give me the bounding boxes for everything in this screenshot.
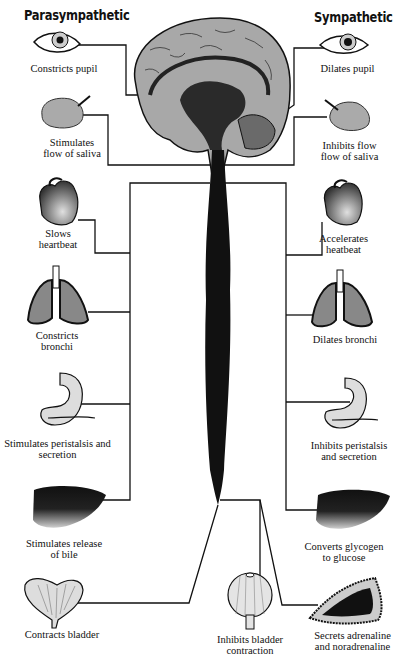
right-lungs-icon	[312, 270, 372, 326]
right-eye-icon	[320, 34, 368, 53]
left-lungs-icon	[28, 266, 88, 324]
left-liver-icon	[33, 486, 106, 528]
label-dilates-pupil: Dilates pupil	[300, 63, 395, 74]
left-bladder-icon	[25, 579, 83, 628]
label-accelerates-heartbeat: Accelerates heatbeat	[296, 233, 391, 255]
label-contracts-bladder: Contracts bladder	[12, 629, 112, 640]
right-liver-icon	[316, 490, 390, 529]
right-salivary-gland-icon	[325, 100, 370, 131]
label-converts-glycogen: Converts glycogen to glucose	[294, 541, 394, 563]
spinal-cord-icon	[205, 150, 230, 505]
label-inhibits-saliva: Inhibits flow flow of saliva	[302, 140, 397, 162]
label-stimulates-saliva: Stimulates flow of saliva	[22, 137, 122, 159]
left-salivary-gland-icon	[42, 96, 90, 128]
center-bladder-icon	[228, 573, 272, 629]
label-stimulates-peristalsis: Stimulates peristalsis and secretion	[0, 438, 115, 460]
label-constricts-pupil: Constricts pupil	[14, 63, 114, 74]
autonomic-nervous-system-diagram: Parasympathetic Sympathetic Constricts p…	[0, 0, 399, 659]
right-heart-icon	[324, 180, 362, 224]
label-inhibits-bladder: Inhibits bladder contraction	[200, 634, 300, 656]
right-stomach-icon	[325, 378, 378, 428]
sympathetic-heading: Sympathetic	[314, 9, 393, 25]
parasympathetic-heading: Parasympathetic	[24, 7, 129, 23]
label-dilates-bronchi: Dilates bronchi	[295, 334, 395, 345]
left-eye-icon	[34, 32, 80, 52]
left-heart-icon	[40, 178, 78, 224]
left-stomach-icon	[41, 373, 95, 425]
label-stimulates-bile: Stimulates release of bile	[14, 538, 114, 560]
label-slows-heartbeat: Slows heartbeat	[8, 228, 108, 250]
label-constricts-bronchi: Constricts bronchi	[7, 330, 107, 352]
right-adrenal-gland-icon	[310, 578, 382, 624]
label-inhibits-peristalsis: Inhibits peristalsis and secretion	[299, 440, 399, 462]
label-secrets-adrenaline: Secrets adrenaline and noradrenaline	[305, 630, 399, 652]
